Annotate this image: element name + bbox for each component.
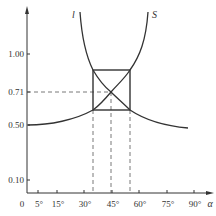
dashed-guides (27, 92, 130, 193)
x-tick-label-5: 5° (35, 199, 44, 209)
x-tick-label-75: 75° (162, 199, 175, 209)
x-tick-label-15: 15° (52, 199, 65, 209)
curve-s-label: S (152, 9, 157, 20)
x-tick-label-60: 60° (134, 199, 147, 209)
chart-container: l S 1.00 0.71 0.50 0.10 0 5° 15° 30° 45°… (0, 0, 216, 216)
y-tick-label-100: 1.00 (8, 49, 24, 59)
y-axis-arrow-icon (25, 6, 29, 14)
y-tick-label-050: 0.50 (8, 120, 24, 130)
x-axis (27, 191, 214, 195)
curve-l-label: l (72, 9, 75, 20)
x-axis-label: α (207, 198, 213, 209)
y-tick-label-071: 0.71 (8, 87, 24, 97)
chart-svg: l S 1.00 0.71 0.50 0.10 0 5° 15° 30° 45°… (0, 0, 216, 216)
x-axis-arrow-icon (206, 191, 214, 195)
x-tick-label-45: 45° (107, 199, 120, 209)
x-tick-label-30: 30° (79, 199, 92, 209)
x-tick-label-90: 90° (189, 199, 202, 209)
y-axis (25, 6, 29, 193)
y-tick-label-010: 0.10 (8, 175, 24, 185)
origin-label: 0 (20, 199, 25, 209)
